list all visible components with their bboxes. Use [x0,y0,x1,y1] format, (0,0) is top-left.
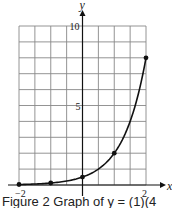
data-point [144,55,149,60]
chart-canvas: xy−22510 [0,0,172,208]
svg-text:5: 5 [76,101,81,112]
figure-caption: Figure 2 Graph of y = (1)(4 [2,194,156,208]
data-point [48,181,53,186]
svg-text:y: y [79,0,86,12]
data-point [112,151,117,156]
axes [8,10,166,196]
svg-text:10: 10 [70,21,80,32]
svg-text:x: x [166,179,172,193]
data-point [17,182,22,187]
data-point [80,175,85,180]
